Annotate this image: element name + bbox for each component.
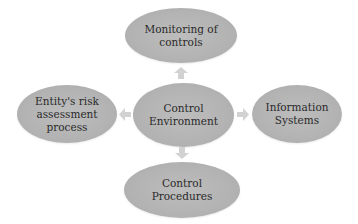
arrow-left-icon (119, 108, 131, 121)
node-control-environment: Control Environment (133, 83, 234, 147)
node-monitoring-of-controls: Monitoring of controls (125, 8, 237, 63)
node-label: Information Systems (265, 101, 328, 127)
node-label: Monitoring of controls (144, 23, 217, 49)
node-label: Control Environment (149, 102, 218, 128)
node-label: Entity's risk assessment process (35, 95, 99, 134)
node-label: Control Procedures (152, 177, 213, 203)
node-control-procedures: Control Procedures (124, 162, 240, 218)
node-information-systems: Information Systems (252, 85, 342, 143)
node-entity-risk-assessment: Entity's risk assessment process (17, 85, 117, 143)
arrow-up-icon (174, 67, 188, 79)
arrow-down-icon (175, 147, 189, 159)
arrow-right-icon (237, 108, 249, 121)
